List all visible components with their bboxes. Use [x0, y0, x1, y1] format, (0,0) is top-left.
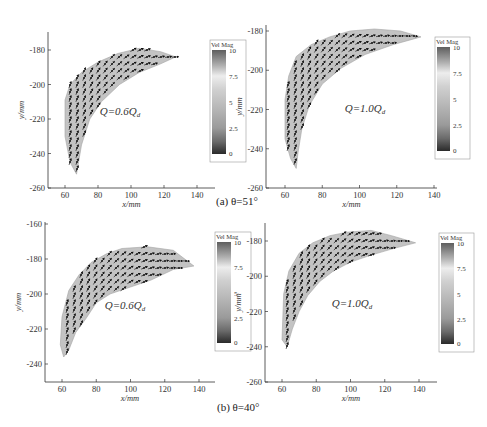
- colorbar: Vel Mag02.557.510: [435, 37, 470, 159]
- flow-field-figure: 6080100120140-180-200-220-240-260x/mmy/m…: [0, 0, 487, 427]
- y-tick-label: -180: [26, 254, 42, 264]
- flow-region: [285, 29, 421, 168]
- colorbar-tick: 0: [234, 339, 238, 347]
- x-tick-label: 80: [312, 384, 321, 394]
- y-axis-label: y/mm: [234, 97, 244, 116]
- y-tick-label: -180: [247, 26, 263, 36]
- colorbar-tick: 5: [457, 291, 461, 299]
- y-tick-label: -200: [29, 80, 45, 90]
- flow-region: [282, 230, 416, 346]
- y-tick-label: -160: [26, 219, 42, 229]
- x-tick-label: 60: [281, 190, 290, 200]
- x-tick-label: 80: [92, 384, 101, 394]
- x-tick-label: 140: [413, 384, 426, 394]
- y-tick-label: -200: [26, 289, 42, 299]
- y-tick-label: -260: [29, 183, 45, 193]
- x-axis-label: x/mm: [121, 199, 140, 209]
- x-tick-label: 120: [378, 384, 391, 394]
- flow-rate-annotation: Q=1.0Qd: [345, 102, 386, 116]
- x-tick-label: 60: [278, 384, 287, 394]
- x-tick-label: 120: [158, 384, 171, 394]
- colorbar-tick: 7.5: [453, 70, 462, 78]
- y-axis-label: y/mm: [16, 101, 26, 120]
- colorbar-tick: 2.5: [234, 315, 243, 323]
- x-tick-label: 80: [318, 190, 327, 200]
- y-tick-label: -240: [246, 342, 262, 352]
- x-tick-label: 140: [193, 384, 206, 394]
- caption-b: (b) θ=40°: [217, 401, 259, 413]
- y-tick-label: -180: [246, 236, 262, 246]
- colorbar-tick: 10: [457, 240, 465, 248]
- y-axis-label: y/mm: [233, 293, 243, 312]
- colorbar: Vel Mag02.557.510: [439, 233, 474, 352]
- y-tick-label: -200: [246, 271, 262, 281]
- y-tick-label: -220: [26, 324, 42, 334]
- x-tick-label: 120: [158, 190, 171, 200]
- colorbar-tick: 2.5: [229, 125, 238, 133]
- flow-rate-annotation: Q=0.6Qd: [105, 299, 146, 313]
- x-tick-label: 140: [428, 190, 441, 200]
- colorbar-tick: 10: [453, 44, 461, 52]
- colorbar-tick: 2.5: [453, 122, 462, 130]
- x-axis-label: x/mm: [120, 393, 139, 403]
- panel-a-right: 6080100120140-180-200-220-240-260x/mmy/m…: [234, 25, 470, 209]
- colorbar-tick: 7.5: [234, 264, 243, 272]
- y-tick-label: -260: [247, 183, 263, 193]
- colorbar-tick: 5: [229, 99, 233, 107]
- flow-rate-annotation: Q=1.0Qd: [332, 297, 373, 311]
- y-tick-label: -240: [26, 359, 42, 369]
- panel-b-right: 6080100120140-180-200-220-240-260x/mmy/m…: [233, 223, 474, 403]
- x-tick-label: 80: [94, 190, 103, 200]
- colorbar-tick: 7.5: [229, 73, 238, 81]
- colorbar-tick: 10: [234, 239, 242, 247]
- colorbar-tick: 2.5: [457, 316, 466, 324]
- y-tick-label: -240: [247, 144, 263, 154]
- x-tick-label: 60: [61, 190, 70, 200]
- x-tick-label: 140: [191, 190, 204, 200]
- y-tick-label: -260: [246, 377, 262, 387]
- x-tick-label: 60: [58, 384, 67, 394]
- colorbar-tick: 0: [457, 340, 461, 348]
- y-tick-label: -180: [29, 45, 45, 55]
- colorbar-tick: 0: [453, 147, 457, 155]
- caption-a: (a) θ=51°: [216, 195, 258, 207]
- x-axis-label: x/mm: [341, 199, 360, 209]
- colorbar-tick: 7.5: [457, 265, 466, 273]
- panel-b-left: 6080100120140-160-180-200-220-240x/mmy/m…: [13, 219, 251, 403]
- x-axis-label: x/mm: [341, 393, 360, 403]
- y-axis-label: y/mm: [13, 293, 23, 312]
- x-tick-label: 120: [390, 190, 403, 200]
- panel-a-left: 6080100120140-180-200-220-240-260x/mmy/m…: [16, 32, 246, 209]
- y-tick-label: -240: [29, 149, 45, 159]
- flow-rate-annotation: Q=0.6Qd: [100, 105, 141, 119]
- colorbar: Vel Mag02.557.510: [215, 232, 251, 351]
- y-tick-label: -220: [247, 105, 263, 115]
- colorbar-tick: 10: [229, 47, 237, 55]
- y-tick-label: -220: [246, 307, 262, 317]
- y-tick-label: -220: [29, 114, 45, 124]
- colorbar-tick: 5: [453, 96, 457, 104]
- y-tick-label: -200: [247, 65, 263, 75]
- axes: 6080100120140-160-180-200-220-240x/mmy/m…: [13, 219, 215, 403]
- colorbar-tick: 0: [229, 150, 233, 158]
